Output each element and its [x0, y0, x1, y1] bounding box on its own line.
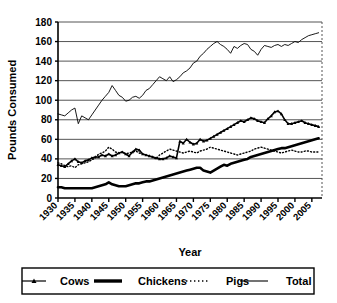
plot-background [58, 22, 322, 198]
x-tick-label-2005: 2005 [291, 199, 314, 222]
y-tick-label-40: 40 [41, 153, 53, 164]
y-tick-label-140: 140 [35, 56, 52, 67]
y-axis-title: Pounds Consumed [6, 60, 18, 160]
y-tick-label-100: 100 [35, 95, 52, 106]
y-tick-label-120: 120 [35, 75, 52, 86]
consumption-line-chart: 0204060801001201401601801930193519401945… [0, 0, 337, 303]
y-tick-label-80: 80 [41, 114, 53, 125]
legend-label-cows: Cows [60, 275, 89, 287]
y-tick-label-20: 20 [41, 173, 53, 184]
legend-label-chickens: Chickens [138, 275, 187, 287]
y-tick-label-160: 160 [35, 36, 52, 47]
legend-label-total: Total [286, 275, 311, 287]
y-tick-label-60: 60 [41, 134, 53, 145]
chart-figure: 0204060801001201401601801930193519401945… [0, 0, 337, 303]
y-tick-label-180: 180 [35, 17, 52, 28]
x-axis-title: Year [178, 246, 202, 258]
